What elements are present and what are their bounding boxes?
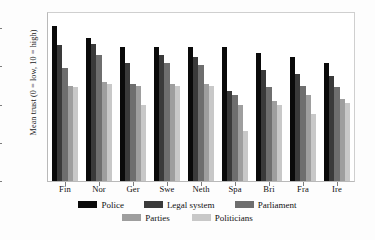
legend-label: Politicians bbox=[215, 213, 253, 223]
x-axis-labels: FinNorGerSweNethSpaBriFraIre bbox=[48, 184, 354, 194]
x-tick-label: Bri bbox=[252, 184, 286, 194]
x-tick-label: Fin bbox=[48, 184, 82, 194]
y-tick-mark bbox=[0, 28, 2, 29]
bar bbox=[345, 103, 350, 181]
legend-item: Police bbox=[78, 200, 124, 210]
bar-groups bbox=[48, 13, 354, 181]
bar bbox=[209, 86, 214, 181]
x-tick-label: Ger bbox=[116, 184, 150, 194]
x-tick-label: Spa bbox=[218, 184, 252, 194]
bar-group bbox=[324, 13, 351, 181]
legend-row-2: PartiesPoliticians bbox=[0, 211, 375, 224]
y-tick-mark bbox=[0, 143, 2, 144]
bar bbox=[277, 105, 282, 181]
legend-swatch bbox=[235, 201, 254, 209]
y-tick-mark bbox=[0, 105, 2, 106]
legend-item: Parliament bbox=[235, 200, 297, 210]
bar bbox=[141, 105, 146, 181]
chart-legend: PoliceLegal systemParliament PartiesPoli… bbox=[0, 198, 375, 224]
x-tick-label: Neth bbox=[184, 184, 218, 194]
x-tick-label: Nor bbox=[82, 184, 116, 194]
legend-item: Legal system bbox=[144, 200, 215, 210]
bar bbox=[107, 84, 112, 181]
bar-group bbox=[188, 13, 215, 181]
legend-label: Parliament bbox=[258, 200, 297, 210]
legend-label: Police bbox=[101, 200, 124, 210]
y-tick-mark bbox=[0, 66, 2, 67]
bar-group bbox=[256, 13, 283, 181]
bar bbox=[175, 86, 180, 181]
x-tick-label: Swe bbox=[150, 184, 184, 194]
legend-item: Politicians bbox=[192, 213, 253, 223]
legend-swatch bbox=[144, 201, 163, 209]
legend-label: Parties bbox=[145, 213, 170, 223]
bar bbox=[73, 87, 78, 181]
legend-swatch bbox=[122, 214, 141, 222]
bar-group bbox=[290, 13, 317, 181]
y-axis-title: Mean trust (0 = low, 10 = high) bbox=[29, 3, 38, 163]
bar-group bbox=[222, 13, 249, 181]
bar-group bbox=[154, 13, 181, 181]
bar-group bbox=[52, 13, 79, 181]
legend-row-1: PoliceLegal systemParliament bbox=[0, 198, 375, 211]
bar-group bbox=[120, 13, 147, 181]
legend-swatch bbox=[78, 201, 97, 209]
bar bbox=[243, 131, 248, 181]
x-tick-label: Fra bbox=[286, 184, 320, 194]
y-tick-mark bbox=[0, 181, 2, 182]
chart-figure: Mean trust (0 = low, 10 = high) 02468 Fi… bbox=[0, 0, 375, 240]
legend-item: Parties bbox=[122, 213, 170, 223]
legend-label: Legal system bbox=[167, 200, 215, 210]
x-tick-label: Ire bbox=[320, 184, 354, 194]
bar-group bbox=[86, 13, 113, 181]
legend-swatch bbox=[192, 214, 211, 222]
bar bbox=[311, 114, 316, 181]
